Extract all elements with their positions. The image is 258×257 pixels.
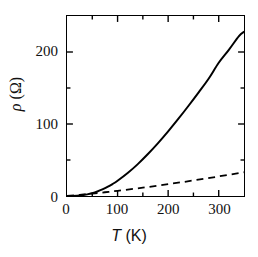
series-line-solid bbox=[67, 32, 244, 196]
axis-ticks bbox=[67, 16, 244, 196]
y-tick-label-0: 0 bbox=[22, 190, 58, 205]
x-tick-label-100: 100 bbox=[106, 202, 129, 217]
x-axis-title-unit: (K) bbox=[121, 227, 147, 244]
plot-canvas bbox=[67, 16, 244, 196]
y-axis-title-symbol: ρ bbox=[7, 103, 24, 111]
y-axis-title: ρ (Ω) bbox=[8, 54, 24, 134]
x-axis-title-symbol: T bbox=[111, 227, 121, 244]
x-tick-label-300: 300 bbox=[208, 202, 231, 217]
y-tick-label-200: 200 bbox=[22, 44, 58, 59]
y-axis-title-unit: (Ω) bbox=[7, 77, 24, 104]
resistivity-vs-temperature-figure: 0 100 200 0 100 200 300 T (K) ρ (Ω) bbox=[0, 0, 258, 257]
y-tick-label-100: 100 bbox=[22, 117, 58, 132]
plot-frame bbox=[66, 15, 245, 197]
x-axis-title: T (K) bbox=[0, 228, 258, 244]
x-tick-label-200: 200 bbox=[157, 202, 180, 217]
x-tick-label-0: 0 bbox=[62, 202, 70, 217]
